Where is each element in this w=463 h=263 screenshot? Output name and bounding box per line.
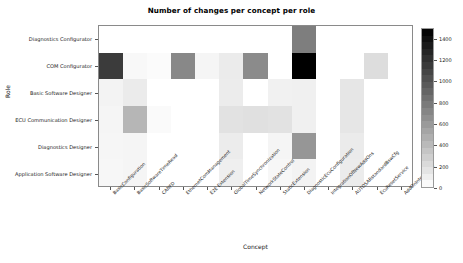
colorbar-segment [422,55,433,62]
y-axis-label: Diagnostics Configurator [0,25,94,52]
heatmap-cell [316,53,340,80]
heatmap-cell [364,53,388,80]
colorbar-segment [422,148,433,155]
colorbar-segment [422,62,433,69]
heatmap-cell [388,106,412,133]
colorbar-tick [434,39,437,40]
heatmap-cell [340,106,364,133]
heatmap-cell [171,53,195,80]
heatmap-cell [99,79,123,106]
colorbar-segment [422,82,433,89]
colorbar-segment [422,69,433,76]
colorbar-tick [434,145,437,146]
y-axis-tick [95,39,98,40]
heatmap-cell [99,53,123,80]
heatmap-cell [99,159,123,186]
colorbar-segment [422,134,433,141]
y-axis-tick-labels: Diagnostics ConfiguratorCOM Configurator… [0,25,94,187]
heatmap-cell [243,133,267,160]
heatmap-cell [364,26,388,53]
heatmap-cell [219,53,243,80]
colorbar-segment [422,115,433,122]
y-axis-tick [95,93,98,94]
heatmap-cell [171,106,195,133]
y-axis-tick [95,66,98,67]
heatmap-cell [219,79,243,106]
heatmap-cell [388,26,412,53]
colorbar-tick [434,167,437,168]
heatmap-cell [243,53,267,80]
colorbar-tick-label: 200 [439,164,449,170]
colorbar-tick-label: 1200 [439,57,452,63]
heatmap-cell [316,106,340,133]
heatmap-cell [147,26,171,53]
heatmap-cell [340,26,364,53]
heatmap-cell [268,79,292,106]
heatmap-cell [268,26,292,53]
colorbar: 0200400600800100012001400 [421,28,461,188]
heatmap-cell [388,53,412,80]
colorbar-segment [422,128,433,135]
colorbar-segment [422,95,433,102]
heatmap-cell [268,53,292,80]
colorbar-segment [422,174,433,181]
y-axis-tick [95,147,98,148]
colorbar-tick [434,188,437,189]
heatmap-cell [292,53,316,80]
colorbar-gradient [421,28,434,188]
colorbar-segment [422,88,433,95]
heatmap-cell [195,106,219,133]
y-axis-tick [95,120,98,121]
colorbar-tick [434,60,437,61]
heatmap-cell [243,79,267,106]
colorbar-segment [422,29,433,36]
heatmap-cell [316,133,340,160]
colorbar-tick-label: 400 [439,142,449,148]
heatmap-cell [292,26,316,53]
heatmap-cell [123,26,147,53]
y-axis-label: COM Configurator [0,52,94,79]
heatmap-cell [340,53,364,80]
colorbar-tick-labels: 0200400600800100012001400 [434,28,461,188]
y-axis-label: Application Software Designer [0,160,94,187]
heatmap-cell [99,133,123,160]
chart-title: Number of changes per concept per role [0,6,463,15]
colorbar-segment [422,154,433,161]
heatmap-cell [292,79,316,106]
heatmap-cell [316,26,340,53]
y-axis-label: Basic Software Designer [0,79,94,106]
y-axis-label: Diagnostics Designer [0,133,94,160]
colorbar-tick-label: 1400 [439,36,452,42]
heatmap-cell [147,53,171,80]
colorbar-tick-label: 600 [439,121,449,127]
colorbar-segment [422,36,433,43]
heatmap-cell [316,79,340,106]
x-axis-title: Concept [98,243,413,250]
heatmap-cell [195,133,219,160]
heatmap-cell [292,106,316,133]
heatmap-cell [268,106,292,133]
heatmap-cell [147,106,171,133]
colorbar-tick-label: 1000 [439,78,452,84]
x-axis-tick-labels: BasicConfigurationBasicSoftwareTimeReadC… [98,190,428,238]
y-axis-tick [95,174,98,175]
colorbar-segment [422,49,433,56]
heatmap-cell [219,26,243,53]
heatmap-cell [123,133,147,160]
colorbar-tick-label: 800 [439,100,449,106]
heatmap-cell [243,106,267,133]
colorbar-tick [434,103,437,104]
colorbar-segment [422,101,433,108]
colorbar-segment [422,42,433,49]
colorbar-segment [422,121,433,128]
colorbar-segment [422,161,433,168]
heatmap-cell [171,26,195,53]
y-axis-label: ECU Communication Designer [0,106,94,133]
heatmap-cell [147,133,171,160]
heatmap-cell [195,53,219,80]
heatmap-cell [364,106,388,133]
heatmap-cell [171,79,195,106]
colorbar-segment [422,75,433,82]
heatmap-cell [147,79,171,106]
colorbar-tick-label: 0 [439,185,442,191]
